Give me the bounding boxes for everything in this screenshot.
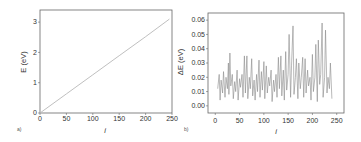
svg-text:200: 200 <box>140 115 152 122</box>
svg-text:0.03: 0.03 <box>191 59 205 66</box>
panel-label-b: b) <box>184 126 189 132</box>
svg-text:200: 200 <box>307 117 319 124</box>
svg-text:0: 0 <box>213 117 217 124</box>
svg-text:100: 100 <box>87 115 99 122</box>
svg-text:100: 100 <box>258 117 270 124</box>
x-axis-ticks-a: 050100150200250 <box>38 113 178 122</box>
svg-text:2: 2 <box>33 49 37 56</box>
svg-text:0.06: 0.06 <box>191 16 205 23</box>
x-axis-label-a: i <box>104 126 106 135</box>
series-line-a <box>40 19 169 113</box>
svg-text:0: 0 <box>38 115 42 122</box>
svg-text:150: 150 <box>113 115 125 122</box>
svg-text:50: 50 <box>63 115 71 122</box>
svg-text:250: 250 <box>331 117 343 124</box>
svg-text:150: 150 <box>282 117 294 124</box>
panel-label-a: a) <box>17 126 22 132</box>
y-axis-ticks-b: 0.000.010.020.030.040.050.06 <box>191 16 208 109</box>
svg-text:0.01: 0.01 <box>191 88 205 95</box>
svg-text:3: 3 <box>33 18 37 25</box>
panel-b-delta-energy-chart: 0.000.010.020.030.040.050.06 05010015020… <box>176 13 344 136</box>
y-axis-ticks-a: 0123 <box>33 18 40 116</box>
y-axis-label-b: ΔE (eV) <box>176 48 185 75</box>
svg-text:250: 250 <box>166 115 178 122</box>
panel-a-energy-chart: 0123 050100150200250 E (eV) i a) <box>17 10 178 135</box>
svg-text:0.05: 0.05 <box>191 31 205 38</box>
x-axis-ticks-b: 050100150200250 <box>213 113 342 124</box>
svg-text:0.04: 0.04 <box>191 45 205 52</box>
svg-text:50: 50 <box>236 117 244 124</box>
x-axis-label-b: i <box>275 127 277 136</box>
figure: 0123 050100150200250 E (eV) i a) 0.000.0… <box>0 0 361 142</box>
plot-frame-a <box>40 10 172 113</box>
svg-text:1: 1 <box>33 79 37 86</box>
svg-text:0: 0 <box>33 109 37 116</box>
series-line-b <box>218 23 332 102</box>
y-axis-label-a: E (eV) <box>19 51 28 73</box>
svg-text:0.02: 0.02 <box>191 74 205 81</box>
svg-text:0.00: 0.00 <box>191 102 205 109</box>
